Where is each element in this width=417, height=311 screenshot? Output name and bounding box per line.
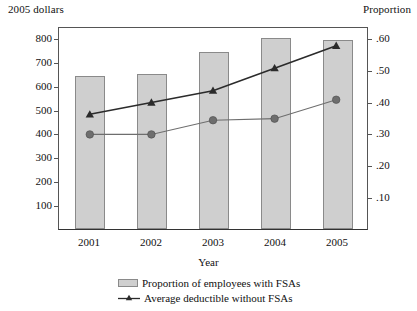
- right-axis-caption: Proportion: [363, 3, 411, 15]
- line-triangle-swatch-icon: [118, 293, 140, 303]
- left-tickmark: [54, 111, 58, 112]
- right-tickmark: [368, 103, 372, 104]
- left-tick-300: 300: [12, 152, 52, 163]
- x-axis-label: Year: [0, 256, 417, 268]
- x-tick-2002: 2002: [121, 236, 181, 248]
- chart-legend: Proportion of employees with FSAs Averag…: [0, 276, 417, 306]
- left-tickmark: [54, 134, 58, 135]
- line-series-overlay: [59, 28, 367, 229]
- left-tickmark: [54, 39, 58, 40]
- x-tick-2005: 2005: [307, 236, 367, 248]
- right-tick-.60: .60: [376, 33, 417, 44]
- left-tick-600: 600: [12, 81, 52, 92]
- left-tickmark: [54, 206, 58, 207]
- x-tick-2003: 2003: [183, 236, 243, 248]
- legend-label-bar: Proportion of employees with FSAs: [142, 277, 300, 289]
- marker-circle-2002: [148, 131, 156, 139]
- left-tickmark: [54, 158, 58, 159]
- legend-label-line: Average deductible without FSAs: [144, 292, 293, 304]
- line-triangle: [90, 46, 336, 115]
- marker-circle-2003: [209, 116, 217, 124]
- left-tick-700: 700: [12, 57, 52, 68]
- right-tickmark: [368, 39, 372, 40]
- left-tick-100: 100: [12, 200, 52, 211]
- right-tick-.10: .10: [376, 192, 417, 203]
- x-tick-2001: 2001: [59, 236, 119, 248]
- right-tickmark: [368, 166, 372, 167]
- legend-item-bar: Proportion of employees with FSAs: [118, 276, 417, 289]
- left-tick-200: 200: [12, 176, 52, 187]
- left-tick-500: 500: [12, 105, 52, 116]
- left-axis-caption: 2005 dollars: [8, 3, 64, 15]
- left-tickmark: [54, 182, 58, 183]
- right-tick-.50: .50: [376, 65, 417, 76]
- left-tick-800: 800: [12, 33, 52, 44]
- legend-item-line: Average deductible without FSAs: [118, 291, 417, 304]
- right-tick-.20: .20: [376, 160, 417, 171]
- chart-figure: 2005 dollars Proportion 1002003004005006…: [0, 0, 417, 311]
- right-tickmark: [368, 134, 372, 135]
- right-tick-.40: .40: [376, 97, 417, 108]
- left-tick-400: 400: [12, 128, 52, 139]
- left-tickmark: [54, 63, 58, 64]
- left-tickmark: [54, 87, 58, 88]
- right-tickmark: [368, 198, 372, 199]
- marker-circle-2005: [332, 96, 340, 104]
- bar-swatch-icon: [118, 279, 138, 287]
- plot-area: [58, 27, 368, 230]
- right-tickmark: [368, 71, 372, 72]
- right-tick-.30: .30: [376, 128, 417, 139]
- marker-circle-2001: [86, 131, 94, 139]
- x-tick-2004: 2004: [245, 236, 305, 248]
- marker-circle-2004: [271, 115, 279, 123]
- marker-triangle-2005: [332, 42, 340, 49]
